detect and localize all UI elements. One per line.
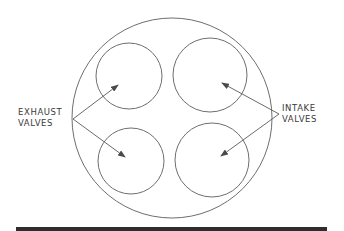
intake-label-line1: INTAKE bbox=[282, 103, 317, 114]
bottom-rule-divider bbox=[16, 227, 327, 231]
exhaust-label-line1: EXHAUST bbox=[18, 107, 62, 118]
intake-label-line2: VALVES bbox=[282, 114, 317, 125]
intake-top-valve-circle bbox=[173, 38, 247, 112]
valves-group bbox=[96, 38, 249, 197]
intake-bottom-valve-circle bbox=[175, 123, 249, 197]
exhaust-bottom-valve-circle bbox=[98, 128, 164, 194]
exhaust-top-valve-circle bbox=[96, 43, 162, 109]
arrows-group bbox=[73, 83, 279, 157]
intake-valves-label: INTAKE VALVES bbox=[282, 103, 317, 125]
exhaust-top-arrow bbox=[73, 85, 118, 119]
exhaust-valves-label: EXHAUST VALVES bbox=[18, 107, 62, 129]
cylinder-bore-circle bbox=[72, 18, 272, 218]
exhaust-label-line2: VALVES bbox=[18, 118, 62, 129]
